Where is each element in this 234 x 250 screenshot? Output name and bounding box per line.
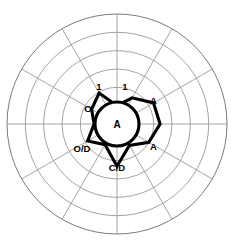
- data-label-a-3: A: [150, 141, 157, 152]
- data-label-o-6: O: [84, 103, 91, 114]
- data-label-a-7: A: [113, 119, 120, 130]
- data-label-c-d-4: C/D: [109, 162, 126, 173]
- data-labels: 11AAC/DO/DOA: [74, 81, 157, 173]
- polar-chart-canvas: 11AAC/DO/DOA: [0, 0, 234, 250]
- data-label-1-1: 1: [122, 81, 128, 92]
- polar-radar-chart: 11AAC/DO/DOA: [0, 0, 234, 250]
- data-label-1-0: 1: [96, 81, 102, 92]
- data-label-a-2: A: [150, 95, 157, 106]
- data-label-o-d-5: O/D: [74, 143, 91, 154]
